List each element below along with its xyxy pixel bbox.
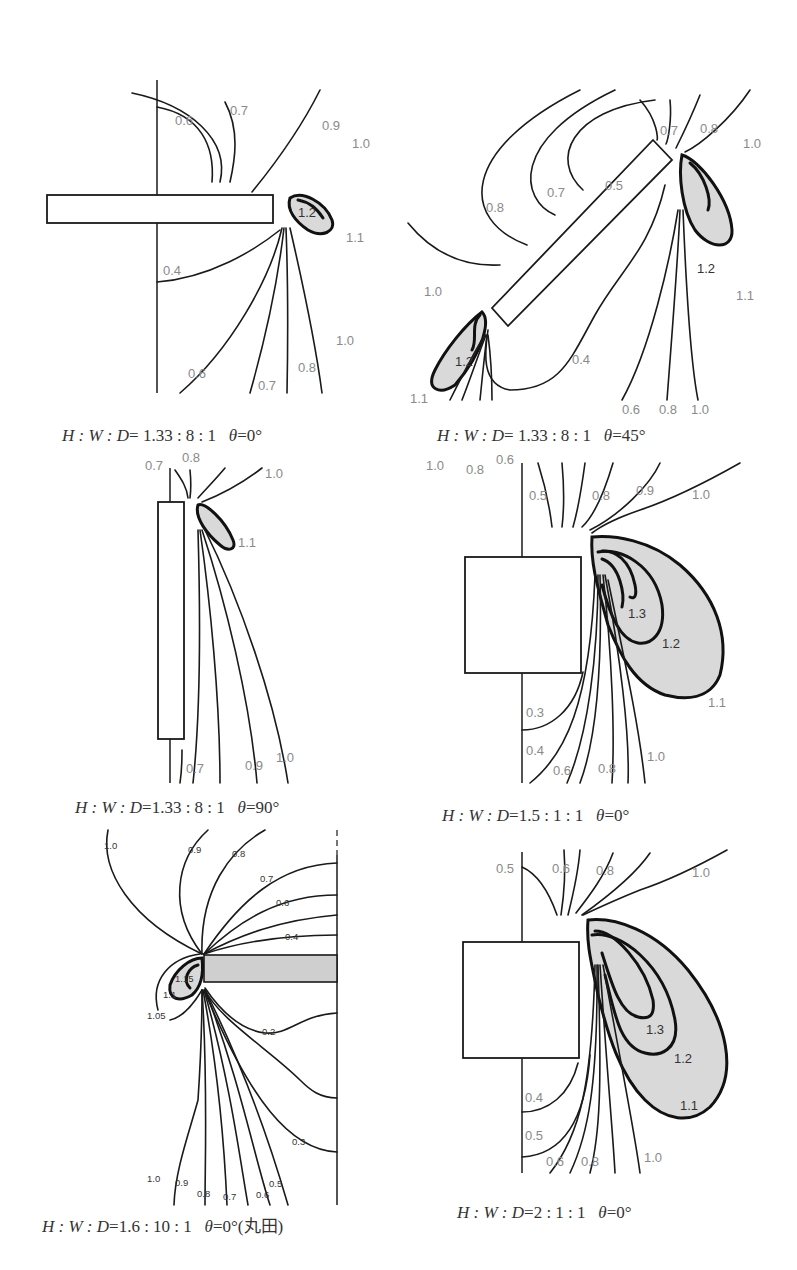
contour-label: 0.7: [660, 123, 678, 138]
contour-label: 1.0: [692, 865, 710, 880]
contour-label: 1.2: [697, 261, 715, 276]
contour-label: 0.8: [197, 1188, 210, 1199]
contour-label: 0.7: [145, 458, 163, 473]
contour-label: 1.1: [736, 288, 754, 303]
contour-label: 0.8: [182, 450, 200, 465]
contour-label: 1.2: [455, 354, 473, 369]
building-body: [47, 195, 273, 223]
panel-6-caption: H : W : D=2 : 1 : 1 θ=0°: [457, 1203, 632, 1223]
building-body: [204, 955, 337, 982]
panel-2-caption: H : W : D= 1.33 : 8 : 1 θ=45°: [437, 426, 646, 446]
panel-1-caption: H : W : D= 1.33 : 8 : 1 θ=0°: [62, 426, 262, 446]
contour-label: 1.0: [647, 749, 665, 764]
contour-label: 0.3: [526, 705, 544, 720]
contour-label: 1.3: [628, 606, 646, 621]
building-body: [465, 557, 581, 673]
contour-label: 0.6: [552, 861, 570, 876]
contour-label: 1.0: [424, 284, 442, 299]
contour-label: 0.5: [525, 1128, 543, 1143]
contour-label: 0.7: [223, 1191, 236, 1202]
contour-label: 1.2: [674, 1051, 692, 1066]
contour-label: 0.5: [605, 178, 623, 193]
contour-label: 0.5: [529, 488, 547, 503]
high-speed-region: [197, 505, 234, 549]
contour-label: 0.6: [256, 1189, 269, 1200]
contour-label: 0.9: [188, 844, 201, 855]
contour-label: 1.0: [743, 136, 761, 151]
contour-label: 0.4: [163, 263, 181, 278]
contour-label: 0.9: [245, 758, 263, 773]
building-body: [492, 140, 672, 326]
contour-label: 1.15: [175, 973, 194, 984]
contour-panel-1: 0.6 0.7 0.9 1.0 1.2 1.1 0.4 1.0 0.6 0.7 …: [40, 60, 400, 420]
contour-label: 0.8: [598, 761, 616, 776]
contour-label: 0.5: [269, 1178, 282, 1189]
contour-label: 0.8: [581, 1154, 599, 1169]
contour-label: 1.0: [644, 1150, 662, 1165]
contour-label: 1.0: [352, 136, 370, 151]
contour-label: 1.2: [298, 205, 316, 220]
contour-label: 0.9: [175, 1177, 188, 1188]
contour-label: 0.8: [298, 360, 316, 375]
contour-label: 1.0: [336, 333, 354, 348]
contour-label: 1.1: [708, 695, 726, 710]
contour-label: 0.7: [547, 185, 565, 200]
panel-4-caption: H : W : D=1.5 : 1 : 1 θ=0°: [442, 806, 629, 826]
contour-label: 0.8: [486, 200, 504, 215]
contour-label: 1.1: [680, 1098, 698, 1113]
contour-label: 1.0: [147, 1173, 160, 1184]
contour-label: 0.8: [596, 863, 614, 878]
contour-label: 1.0: [276, 750, 294, 765]
high-speed-region: [681, 155, 733, 245]
contour-label: 0.6: [553, 763, 571, 778]
contour-panel-4: 0.5 0.8 0.9 1.0 1.3 1.2 1.1 0.3 0.4 0.6 …: [440, 455, 780, 795]
contour-label: 0.9: [322, 118, 340, 133]
high-speed-region: [432, 312, 486, 390]
contour-label: 1.1: [346, 230, 364, 245]
building-body: [158, 502, 184, 739]
contour-label: 0.6: [276, 897, 289, 908]
contour-label: 1.0: [265, 466, 283, 481]
contour-label: 0.4: [285, 931, 298, 942]
contour-panel-5: 1.0 0.9 0.8 0.7 0.6 0.4 1.15 1.1 1.05 0.…: [80, 830, 380, 1210]
contour-label: 0.4: [525, 1090, 543, 1105]
contour-label: 0.7: [260, 873, 273, 884]
contour-panel-3: 0.7 0.8 1.0 1.1 0.7 0.9 1.0: [100, 450, 400, 790]
contour-label: 0.6: [622, 402, 640, 417]
building-body: [463, 942, 579, 1058]
contour-label: 1.0: [691, 402, 709, 417]
contour-label: 1.0: [692, 487, 710, 502]
contour-label: 0.7: [186, 761, 204, 776]
contour-label: 0.6: [188, 366, 206, 381]
contour-label: 0.4: [526, 743, 544, 758]
contour-panel-2: 0.7 0.8 1.0 0.8 0.7 0.5 1.2 1.1 1.0 1.2 …: [400, 60, 797, 420]
contour-label: 1.05: [147, 1010, 166, 1021]
contour-label: 0.8: [592, 488, 610, 503]
contour-panel-6: 0.5 0.6 0.8 1.0 1.3 1.2 1.1 0.4 0.5 0.6 …: [440, 835, 780, 1195]
contour-label: 1.1: [410, 391, 428, 406]
contour-label: 0.4: [572, 352, 590, 367]
contour-label: 0.5: [496, 861, 514, 876]
contour-label: 1.1: [238, 535, 256, 550]
panel-5-caption: H : W : D=1.6 : 10 : 1 θ=0°(丸田): [42, 1212, 283, 1237]
contour-label: 0.6: [546, 1154, 564, 1169]
contour-label: 0.2: [262, 1026, 275, 1037]
contour-label: 0.8: [232, 848, 245, 859]
contour-label: 0.7: [258, 378, 276, 393]
contour-label: 1.3: [646, 1022, 664, 1037]
contour-label: 0.3: [292, 1136, 305, 1147]
contour-label: 0.8: [659, 402, 677, 417]
contour-label: 1.0: [104, 840, 117, 851]
contour-label: 0.8: [700, 121, 718, 136]
contour-label: 0.7: [230, 103, 248, 118]
contour-label: 0.9: [636, 483, 654, 498]
contour-label: 1.1: [163, 989, 176, 1000]
contour-label: 1.2: [662, 636, 680, 651]
contour-label: 0.6: [175, 113, 193, 128]
panel-3-caption: H : W : D=1.33 : 8 : 1 θ=90°: [75, 798, 279, 818]
